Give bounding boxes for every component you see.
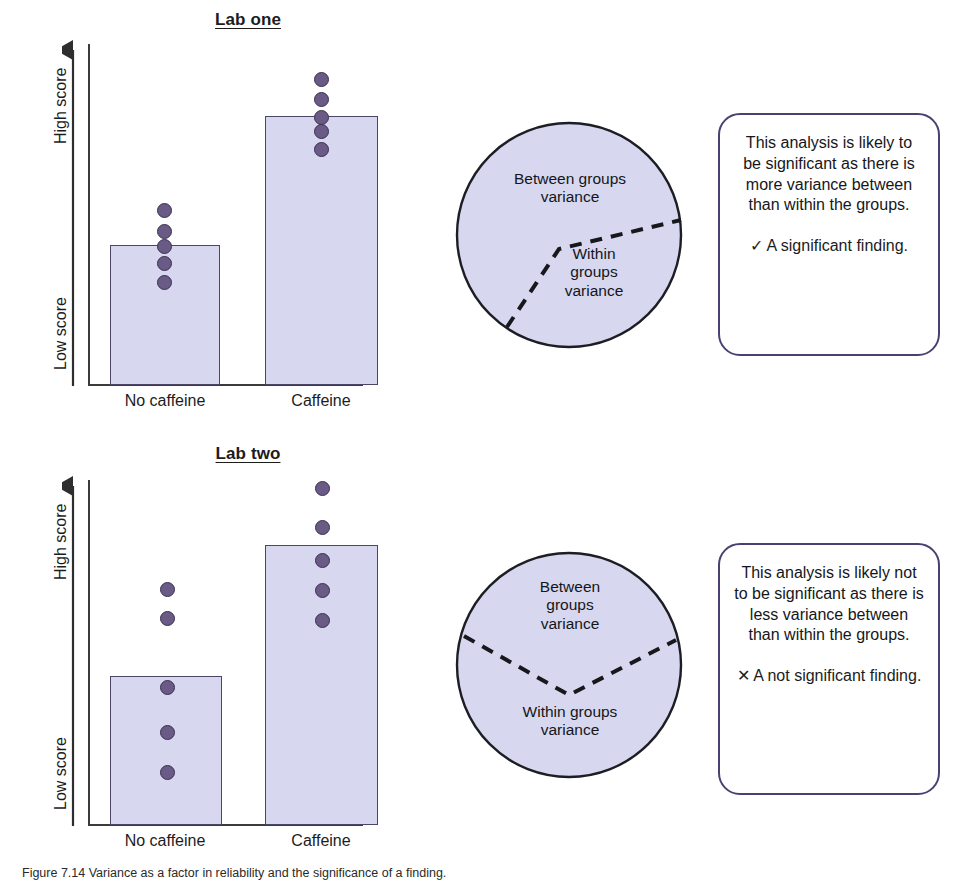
lab-two-point-no-caffeine <box>160 611 175 626</box>
lab-two-xlabel-caffeine: Caffeine <box>256 832 386 850</box>
lab-one-xlabel-no-caffeine: No caffeine <box>95 392 235 410</box>
cross-icon: ✕ <box>737 667 750 684</box>
pie-within-line-2: variance <box>541 721 600 738</box>
lab-two-point-no-caffeine <box>160 680 175 695</box>
lab-two-point-caffeine <box>315 613 330 628</box>
lab-one-point-caffeine <box>314 72 329 87</box>
lab-two-callout: This analysis is likely not to be signif… <box>718 543 940 795</box>
lab-one-point-caffeine <box>314 124 329 139</box>
lab-two-verdict-text: A not significant finding. <box>753 667 921 684</box>
lab-two-point-caffeine <box>315 481 330 496</box>
lab-two-point-no-caffeine <box>160 582 175 597</box>
lab-two-variance-pie: Between groups variance Within groups va… <box>452 548 687 783</box>
lab-one-point-caffeine <box>314 110 329 125</box>
lab-one-point-no-caffeine <box>157 256 172 271</box>
pie-label-within: Within groups variance <box>540 245 648 300</box>
lab-one-point-no-caffeine <box>157 239 172 254</box>
lab-one-xlabel-caffeine: Caffeine <box>256 392 386 410</box>
lab-one-point-no-caffeine <box>157 275 172 290</box>
lab-one-y-axis-line <box>88 44 90 385</box>
pie-within-line-2: groups <box>570 263 617 280</box>
check-icon: ✓ <box>750 237 763 254</box>
lab-one-point-no-caffeine <box>157 224 172 239</box>
pie-within-line-3: variance <box>565 282 624 299</box>
lab-two-y-axis-line <box>88 480 90 825</box>
pie-between-line-1: Between groups <box>514 170 626 187</box>
figure-caption: Figure 7.14 Variance as a factor in reli… <box>22 866 446 880</box>
lab-one-title: Lab one <box>148 10 348 30</box>
lab-one-point-no-caffeine <box>157 203 172 218</box>
lab-two-title: Lab two <box>148 444 348 464</box>
lab-one-y-low-label: Low score <box>52 297 70 370</box>
lab-two-point-caffeine <box>315 553 330 568</box>
lab-two-callout-body: This analysis is likely not to be signif… <box>734 563 924 646</box>
lab-two-y-low-label: Low score <box>52 737 70 810</box>
lab-one-callout: This analysis is likely to be significan… <box>718 113 940 356</box>
lab-two-point-caffeine <box>315 583 330 598</box>
lab-one-verdict-text: A significant finding. <box>767 237 908 254</box>
lab-two-callout-verdict: ✕ A not significant finding. <box>737 666 922 687</box>
pie-within-line-1: Within groups <box>523 703 618 720</box>
lab-two-xlabel-no-caffeine: No caffeine <box>95 832 235 850</box>
lab-one-point-caffeine <box>314 142 329 157</box>
lab-two-point-caffeine <box>315 520 330 535</box>
lab-two-bar-no-caffeine <box>110 676 222 825</box>
pie-between-line-2: variance <box>541 188 600 205</box>
lab-one-variance-pie: Between groups variance Within groups va… <box>452 118 687 353</box>
lab-one-callout-body: This analysis is likely to be significan… <box>736 133 922 216</box>
lab-one-point-caffeine <box>314 92 329 107</box>
pie-between-line-3: variance <box>541 615 600 632</box>
lab-one-y-high-label: High score <box>52 68 70 144</box>
pie-label-between: Between groups variance <box>470 170 670 207</box>
lab-two-y-high-label: High score <box>52 504 70 580</box>
pie-label-between: Between groups variance <box>500 578 640 633</box>
pie-within-line-1: Within <box>572 245 615 262</box>
pie-label-within: Within groups variance <box>480 703 660 740</box>
lab-two-point-no-caffeine <box>160 765 175 780</box>
pie-between-line-2: groups <box>546 596 593 613</box>
lab-two-point-no-caffeine <box>160 725 175 740</box>
pie-between-line-1: Between <box>540 578 600 595</box>
lab-one-callout-verdict: ✓ A significant finding. <box>750 236 908 257</box>
